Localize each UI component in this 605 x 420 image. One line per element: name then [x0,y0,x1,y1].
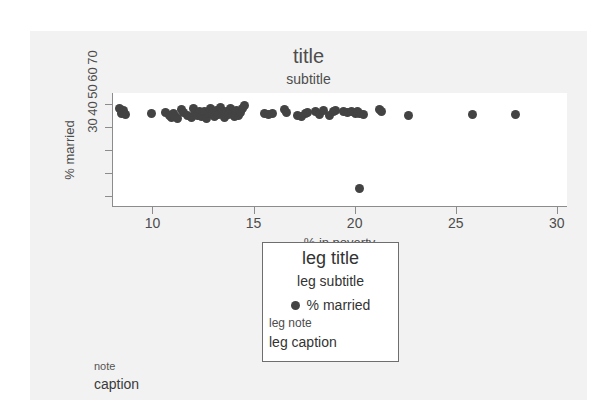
y-tick-mark [105,150,112,151]
x-tick-label: 20 [335,215,375,231]
data-point [377,107,386,116]
y-axis-title: % married [60,93,78,207]
x-tick-label: 10 [132,215,172,231]
y-tick-label: 70 [85,50,100,64]
x-tick-label: 15 [234,215,274,231]
y-tick-mark [105,127,112,128]
y-tick-mark [105,173,112,174]
graph-caption: caption [94,376,139,393]
data-point [121,110,130,119]
legend-note: leg note [269,316,312,330]
x-tick-mark [557,207,558,214]
y-tick-mark [105,196,112,197]
data-point [468,110,477,119]
data-point [511,110,520,119]
x-tick-label: 30 [537,215,577,231]
y-tick-label: 40 [85,101,100,115]
data-point [147,109,156,118]
legend-caption: leg caption [269,334,337,351]
legend-entry: % married [263,297,398,313]
x-tick-mark [355,207,356,214]
legend: leg title leg subtitle % married leg not… [262,242,399,362]
data-point [359,110,368,119]
y-tick-label: 30 [85,118,100,132]
data-point [240,101,249,110]
data-point [355,184,364,193]
chart-title: title [30,45,587,67]
legend-title: leg title [263,248,398,269]
graph-note: note [94,360,115,373]
x-tick-label: 25 [436,215,476,231]
data-point [404,111,413,120]
data-point [268,109,277,118]
legend-subtitle: leg subtitle [263,273,398,290]
y-tick-mark [105,104,112,105]
chart-page: title subtitle % married 3040506070 1015… [0,0,605,420]
page-bleed-text [60,0,560,8]
y-tick-label: 60 [85,67,100,81]
scatter-points-layer [113,93,567,206]
plot-frame [112,93,567,207]
data-point [282,108,291,117]
legend-entry-label: % married [307,297,371,313]
graph-region: title subtitle % married 3040506070 1015… [30,31,587,400]
legend-marker-icon [291,301,300,310]
y-axis-title-label: % married [62,120,77,179]
chart-subtitle: subtitle [30,71,587,87]
y-tick-label: 50 [85,84,100,98]
y-axis-tick-labels: 3040506070 [82,93,102,207]
x-tick-mark [152,207,153,214]
x-tick-mark [254,207,255,214]
x-tick-mark [456,207,457,214]
